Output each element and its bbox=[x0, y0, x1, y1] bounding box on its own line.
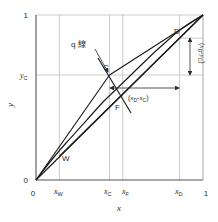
x-tick-xd: xD bbox=[174, 187, 183, 197]
x-tick-xd-sub: D bbox=[179, 191, 183, 197]
x-tick-xf-sub: F bbox=[126, 191, 130, 197]
y-tick-yc: yC bbox=[19, 71, 28, 81]
q-line-callout-label: q 線 bbox=[71, 39, 86, 49]
point-label-w: W bbox=[62, 154, 70, 163]
x-tick-xf: xF bbox=[121, 187, 130, 197]
x-tick-xc: xC bbox=[103, 187, 112, 197]
x-tick-xc-sub: C bbox=[108, 191, 112, 197]
x-tick-1: 1 bbox=[204, 189, 209, 198]
y-tick-0: 0 bbox=[24, 176, 29, 185]
point-marker-D: D bbox=[174, 27, 180, 36]
x-axis-title: x bbox=[116, 203, 121, 213]
y-axis-title: y bbox=[5, 103, 15, 108]
x-tick-xw: xW bbox=[53, 187, 64, 197]
y-tick-yc-sub: C bbox=[24, 75, 28, 81]
point-label-d: D bbox=[174, 27, 180, 36]
x-tick-xw-sub: W bbox=[58, 191, 64, 197]
point-marker-W: W bbox=[62, 154, 70, 163]
axis-label-x: x bbox=[116, 203, 121, 213]
mccabe-thiele-diagram: W C F D q 線 (xD-xC) (xD-yC) 1 yC 0 0 xW bbox=[0, 0, 218, 222]
y-tick-1: 1 bbox=[24, 11, 29, 20]
point-label-f: F bbox=[115, 103, 120, 112]
y-axis-ticks: 1 yC 0 bbox=[19, 11, 29, 185]
x-tick-0: 0 bbox=[31, 189, 36, 198]
x-axis-ticks: 0 xW xC xF xD 1 bbox=[31, 187, 209, 198]
point-marker-F: F bbox=[115, 103, 120, 112]
axis-label-y: y bbox=[5, 103, 15, 108]
